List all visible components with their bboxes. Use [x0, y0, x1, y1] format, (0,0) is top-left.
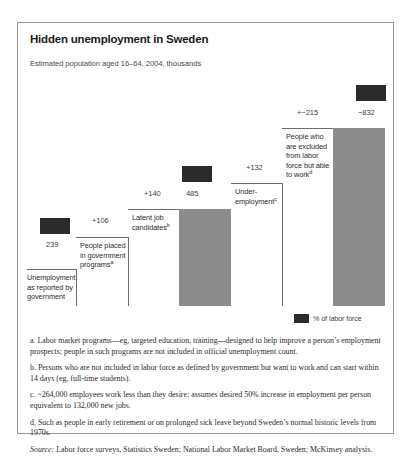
category-label-step5: People who are excluded from labor force… [286, 132, 336, 180]
legend-swatch-pct-of-labor-force [294, 314, 309, 323]
delta-value-step2: +106 [92, 216, 109, 225]
footnote-c: c. ~264,000 employees work less than the… [30, 390, 382, 411]
footnote-marker-d: d [309, 169, 312, 175]
step-rule-4 [231, 183, 283, 184]
category-label-step5-line2: are excluded [286, 142, 327, 151]
footnote-marker-b: b [167, 221, 170, 227]
category-label-step5-line4: force but able [286, 161, 329, 170]
pct-callout-box-step5 [356, 85, 386, 101]
category-label-step2: People placed in government programsa [80, 241, 132, 270]
category-label-step3-line1: Latent job [132, 213, 163, 222]
footnote-b: b. Persons who are not included in labor… [30, 363, 382, 384]
total-value-step3: 485 [186, 189, 198, 198]
cumulative-bar-485 [179, 209, 231, 306]
step-rule-2 [76, 237, 129, 238]
footnote-a: a. Labor market programs—eg, targeted ed… [30, 336, 382, 357]
pct-callout-box-step3 [182, 166, 212, 182]
source-label: Source: [30, 445, 54, 454]
category-label-step4-line1: Under- [235, 187, 257, 196]
category-label-step1: Unemployment as reported by government [27, 273, 85, 302]
footnotes-block: a. Labor market programs—eg, targeted ed… [30, 336, 382, 455]
total-value-step5: ~832 [358, 108, 375, 117]
category-label-step2-line2: in government [80, 251, 126, 260]
category-label-step4-line2: employment [235, 197, 274, 206]
total-value-step1: 239 [46, 240, 58, 249]
category-label-step2-line3: programs [80, 260, 110, 269]
delta-value-step4: +132 [246, 163, 263, 172]
category-label-step2-line1: People placed [80, 241, 126, 250]
source-line: Source: Labor force surveys, Statistics … [30, 445, 382, 456]
category-label-step3-line2: candidates [132, 223, 167, 232]
category-label-step5-line5: to work [286, 170, 309, 179]
pct-callout-box-step1 [40, 218, 70, 234]
waterfall-chart: 239 Unemployment as reported by governme… [18, 23, 395, 323]
delta-value-step3: +140 [144, 189, 161, 198]
exhibit-panel: Hidden unemployment in Sweden Estimated … [17, 22, 394, 434]
footnote-marker-c: c [274, 195, 277, 201]
step-rule-1 [27, 269, 77, 270]
category-label-step3: Latent job candidatesb [132, 213, 182, 232]
legend-label-pct-of-labor-force: % of labor force [313, 314, 362, 323]
step-rule-3 [128, 209, 180, 210]
legend: % of labor force [294, 314, 362, 323]
category-label-step5-line3: from labor [286, 151, 318, 160]
footnote-d: d. Such as people in early retirement or… [30, 418, 382, 439]
cumulative-bar-832 [333, 128, 385, 306]
category-label-step5-line1: People who [286, 132, 324, 141]
delta-value-step5: +~215 [297, 108, 318, 117]
step-rule-5 [282, 128, 334, 129]
footnote-marker-a: a [110, 259, 113, 265]
category-label-step1-text: Unemployment as reported by government [27, 273, 76, 301]
source-text: Labor force surveys, Statistics Sweden; … [54, 445, 372, 454]
category-label-step4: Under- employmentc [235, 187, 285, 206]
